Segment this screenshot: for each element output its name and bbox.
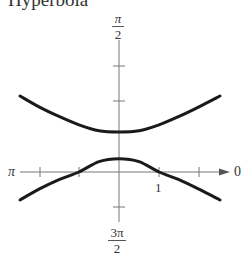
tick-label-1: 1 <box>155 181 162 194</box>
label-pi-over-2: π 2 <box>112 12 124 41</box>
label-pi: π <box>8 165 15 179</box>
label-zero: 0 <box>234 165 241 179</box>
label-3pi-over-2: 3π 2 <box>108 226 126 255</box>
arrow-head-icon <box>219 169 230 176</box>
hyperbola-lower-branch <box>20 159 220 200</box>
